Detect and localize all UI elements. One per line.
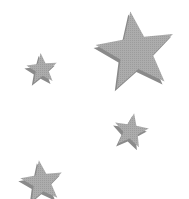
small-star-left-icon bbox=[24, 53, 56, 86]
star-bottom-left-icon bbox=[18, 160, 62, 199]
medium-star-right-icon bbox=[113, 113, 149, 150]
large-star-icon bbox=[94, 11, 173, 91]
stars-group bbox=[18, 11, 173, 199]
star-shape bbox=[96, 11, 173, 88]
star-canvas bbox=[0, 0, 189, 199]
